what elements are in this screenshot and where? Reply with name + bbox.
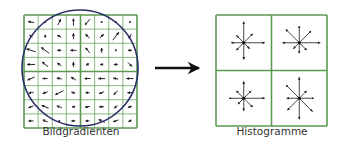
right-panel-label: Histogramme [216,125,328,137]
left-panel-label: Bildgradienten [24,125,138,137]
